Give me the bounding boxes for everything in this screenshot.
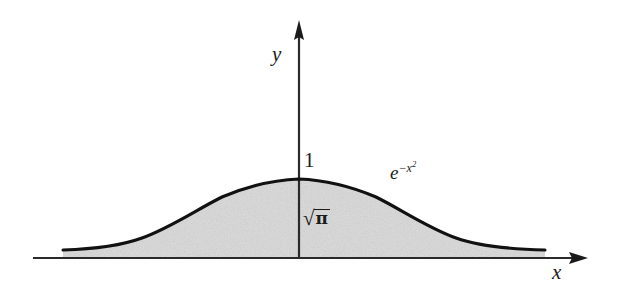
radical-group: √π <box>301 208 330 229</box>
figure-canvas <box>0 0 617 291</box>
curve-equation-label: e−x2 <box>390 160 416 182</box>
x-axis-label: x <box>552 262 561 283</box>
curve-equation-exponent: −x2 <box>398 161 416 175</box>
radicand-value: π <box>314 209 330 227</box>
peak-value-label: 1 <box>304 150 315 171</box>
y-axis-arrowhead <box>294 20 304 40</box>
curve-exponent-power: 2 <box>412 159 416 169</box>
area-value-label: √π <box>301 208 330 229</box>
y-axis-label: y <box>272 44 281 65</box>
curve-exponent-text: −x <box>398 161 411 175</box>
gaussian-figure: y x 1 √π e−x2 <box>0 0 617 291</box>
